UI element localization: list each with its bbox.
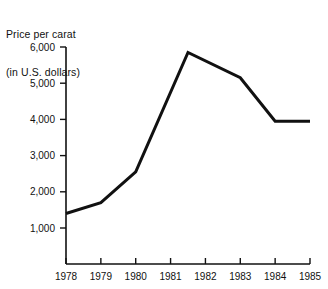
y-axis-tick-label: 1,000 [30,223,55,234]
x-axis: 19781979198019811982198319841985 [55,258,322,282]
x-axis-tick-labels: 19781979198019811982198319841985 [55,271,322,282]
y-axis-ticks [60,47,66,228]
y-axis-tick-label: 5,000 [30,78,55,89]
y-axis-tick-labels: 1,0002,0003,0004,0005,0006,000 [30,42,55,234]
x-axis-tick-label: 1985 [299,271,322,282]
plot-area: 1,0002,0003,0004,0005,0006,000 197819791… [0,0,328,289]
y-axis: 1,0002,0003,0004,0005,0006,000 [30,42,66,265]
x-axis-tick-label: 1980 [125,271,148,282]
x-axis-tick-label: 1982 [194,271,217,282]
x-axis-tick-label: 1981 [159,271,182,282]
x-axis-tick-label: 1978 [55,271,78,282]
x-axis-tick-label: 1984 [264,271,287,282]
y-axis-tick-label: 4,000 [30,114,55,125]
x-axis-ticks [66,258,310,264]
y-axis-tick-label: 2,000 [30,186,55,197]
data-series-line [66,52,310,213]
price-per-carat-line-chart: Price per carat (in U.S. dollars) 1,0002… [0,0,328,289]
x-axis-tick-label: 1979 [90,271,113,282]
y-axis-tick-label: 6,000 [30,42,55,53]
y-axis-tick-label: 3,000 [30,150,55,161]
x-axis-tick-label: 1983 [229,271,252,282]
